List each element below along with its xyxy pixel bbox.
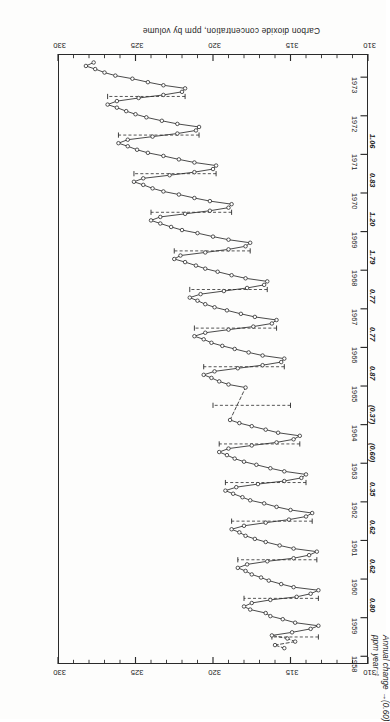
annual-change-title-line2: ppm year⁻¹ <box>371 635 380 676</box>
year-tick-label: 1964 <box>350 425 359 441</box>
annual-change-value: 1.06 <box>368 134 377 148</box>
year-tick-label: 1972 <box>350 116 359 132</box>
year-tick-label: 1966 <box>350 347 359 363</box>
year-tick-label: 1958 <box>350 656 359 672</box>
data-line-group <box>86 62 319 648</box>
year-tick-label: 1962 <box>350 502 359 518</box>
annual-change-value: 0.80 <box>368 598 377 612</box>
annual-change-value: 0.83 <box>368 173 377 187</box>
ppm-tick-label-bottom: 330 <box>53 41 66 50</box>
year-tick-label: 1959 <box>350 618 359 634</box>
ppm-tick-label-bottom: 325 <box>131 41 144 50</box>
annual-change-value: 0.77 <box>368 327 377 341</box>
data-point-markers-group <box>84 61 320 650</box>
annual-change-value: 0.87 <box>368 366 377 380</box>
annual-change-axis-title: Annual change →(0.60)ppm year⁻¹ <box>370 635 390 721</box>
ppm-tick-label-top: 315 <box>286 668 299 677</box>
year-tick-label: 1963 <box>350 463 359 479</box>
year-tick-label: 1961 <box>350 540 359 556</box>
annual-change-value: 0.77 <box>368 289 377 303</box>
year-tick-label: 1973 <box>350 77 359 93</box>
year-tick-label: 1968 <box>350 270 359 286</box>
year-tick-label: 1965 <box>350 386 359 402</box>
year-tick-label: 1969 <box>350 232 359 248</box>
ppm-tick-label-top: 325 <box>131 668 144 677</box>
annual-change-value: (0.60) <box>368 443 377 462</box>
annual-change-title-line1: Annual change →(0.60) <box>381 635 390 721</box>
ppm-tick-label-bottom: 320 <box>208 41 221 50</box>
year-tick-label: 1960 <box>350 579 359 595</box>
annual-change-value: 1.20 <box>368 212 377 226</box>
annual-change-value: 0.35 <box>368 482 377 496</box>
year-tick-label: 1971 <box>350 154 359 170</box>
annual-change-markers-group <box>108 94 319 640</box>
ppm-tick-label-top: 330 <box>53 668 66 677</box>
annual-change-value: (0.37) <box>368 405 377 424</box>
annual-change-value: 0.62 <box>368 559 377 573</box>
year-tick-label: 1967 <box>350 309 359 325</box>
ppm-tick-label-top: 320 <box>208 668 221 677</box>
year-tick-label: 1970 <box>350 193 359 209</box>
ppm-tick-label-bottom: 315 <box>286 41 299 50</box>
ppm-tick-label-bottom: 310 <box>363 41 376 50</box>
ppm-axis-title: Carbon dioxide concentration, ppm by vol… <box>143 26 320 36</box>
annual-change-value: 0.62 <box>368 520 377 534</box>
tick-marks-group <box>58 54 368 664</box>
annual-change-value: 1.79 <box>368 250 377 264</box>
